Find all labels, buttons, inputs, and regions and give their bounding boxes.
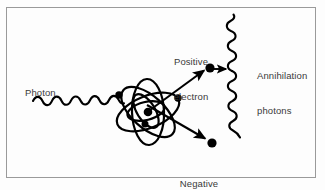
annihilation-label-line2: photons xyxy=(257,105,307,117)
negative-electron-label-line1: Negative xyxy=(168,178,230,190)
positive-electron-label-line2: electron xyxy=(160,91,222,103)
orbital-electron-lower xyxy=(142,121,149,128)
photon-label: Photon xyxy=(14,75,56,110)
positive-electron-label: Positive electron xyxy=(160,33,222,125)
photon-label-text: Photon xyxy=(25,87,56,98)
figure-root: Photon Positive electron Annihilation ph… xyxy=(0,0,325,190)
negative-electron-label: Negative electron xyxy=(168,155,230,190)
orbital-electron-left xyxy=(115,91,122,98)
annihilation-photon-upper-wave xyxy=(227,15,236,72)
annihilation-photon-lower-wave xyxy=(228,71,240,138)
annihilation-photons-label: Annihilation photons xyxy=(257,47,307,139)
annihilation-label-line1: Annihilation xyxy=(257,70,307,82)
electron-particle-dot xyxy=(207,138,216,147)
positive-electron-label-line1: Positive xyxy=(160,56,222,68)
